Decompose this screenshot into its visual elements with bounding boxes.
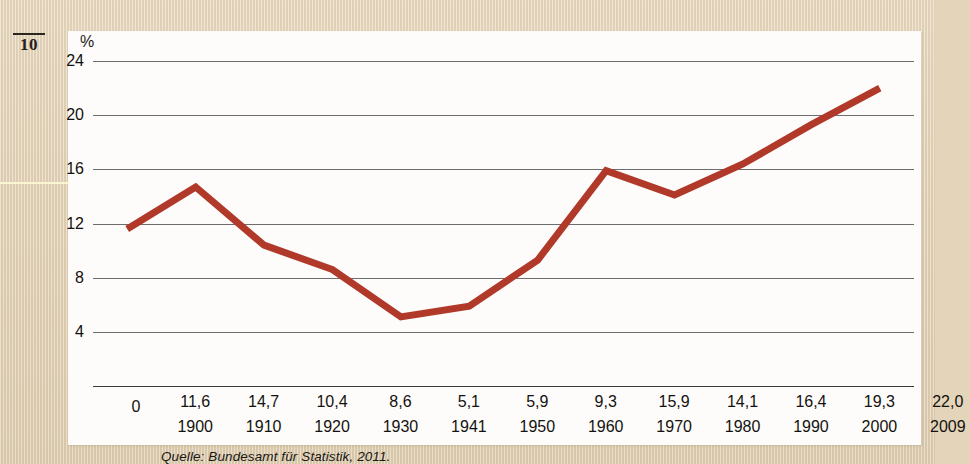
x-axis-column-1941: 5,11941 bbox=[437, 391, 501, 439]
page-number-label: 10 bbox=[20, 35, 38, 54]
data-value-1970: 15,9 bbox=[642, 391, 706, 413]
x-axis-column-1920: 10,41920 bbox=[300, 391, 364, 439]
data-value-1980: 14,1 bbox=[711, 391, 775, 413]
data-value-1910: 14,7 bbox=[232, 391, 296, 413]
x-axis-tick-1910: 1910 bbox=[232, 413, 296, 439]
data-value-1941: 5,1 bbox=[437, 391, 501, 413]
x-axis-column-2009: 22,02009 bbox=[916, 391, 970, 439]
data-value-2000: 19,3 bbox=[847, 391, 911, 413]
x-axis-tick-1960: 1960 bbox=[574, 413, 638, 439]
data-value-1990: 16,4 bbox=[779, 391, 843, 413]
x-axis-column-1960: 9,31960 bbox=[574, 391, 638, 439]
plot-area: % 2420161284 bbox=[93, 61, 914, 386]
data-value-1960: 9,3 bbox=[574, 391, 638, 413]
x-axis-column-1910: 14,71910 bbox=[232, 391, 296, 439]
x-axis-tick-1920: 1920 bbox=[300, 413, 364, 439]
series-polyline bbox=[127, 88, 880, 317]
page-number: 10 bbox=[12, 33, 46, 54]
x-axis-column-1970: 15,91970 bbox=[642, 391, 706, 439]
chart-panel: % 2420161284 0 11,6190014,7191010,419208… bbox=[68, 31, 921, 445]
data-value-2009: 22,0 bbox=[916, 391, 970, 413]
data-value-1920: 10,4 bbox=[300, 391, 364, 413]
x-axis-column-1900: 11,61900 bbox=[163, 391, 227, 439]
x-axis-tick-1980: 1980 bbox=[711, 413, 775, 439]
data-value-1950: 5,9 bbox=[505, 391, 569, 413]
x-axis-tick-1941: 1941 bbox=[437, 413, 501, 439]
y-axis-tick-24: 24 bbox=[66, 52, 84, 70]
x-axis-column-2000: 19,32000 bbox=[847, 391, 911, 439]
data-value-1900: 11,6 bbox=[163, 391, 227, 413]
x-axis-column-1950: 5,91950 bbox=[505, 391, 569, 439]
y-axis-tick-12: 12 bbox=[66, 215, 84, 233]
x-axis-column-1980: 14,11980 bbox=[711, 391, 775, 439]
x-axis-tick-1970: 1970 bbox=[642, 413, 706, 439]
x-axis-tick-1930: 1930 bbox=[368, 413, 432, 439]
y-axis-tick-4: 4 bbox=[75, 323, 84, 341]
x-axis-tick-2009: 2009 bbox=[916, 413, 970, 439]
x-axis-tick-1950: 1950 bbox=[505, 413, 569, 439]
y-axis-tick-20: 20 bbox=[66, 106, 84, 124]
x-axis-column-1990: 16,41990 bbox=[779, 391, 843, 439]
x-axis-column-1930: 8,61930 bbox=[368, 391, 432, 439]
source-note: Quelle: Bundesamt für Statistik, 2011. bbox=[161, 449, 390, 464]
x-axis-tick-2000: 2000 bbox=[847, 413, 911, 439]
y-axis-tick-8: 8 bbox=[75, 269, 84, 287]
x-axis-tick-1900: 1900 bbox=[163, 413, 227, 439]
x-axis-tick-1990: 1990 bbox=[779, 413, 843, 439]
y-axis-unit-label: % bbox=[80, 33, 94, 51]
x-axis-labels: 11,6190014,7191010,419208,619305,119415,… bbox=[161, 391, 970, 443]
y-axis-zero-label: 0 bbox=[132, 398, 141, 416]
series-line bbox=[93, 61, 914, 386]
y-axis-tick-16: 16 bbox=[66, 160, 84, 178]
data-value-1930: 8,6 bbox=[368, 391, 432, 413]
gridline-0 bbox=[93, 386, 914, 387]
